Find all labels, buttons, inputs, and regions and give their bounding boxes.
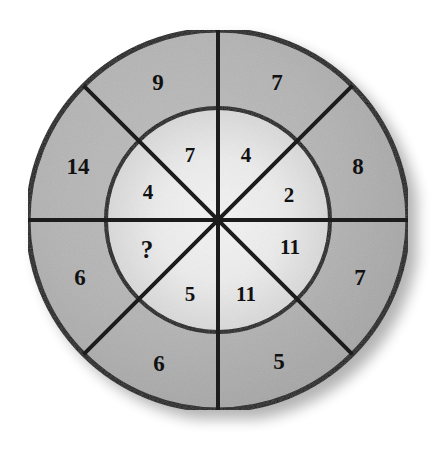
outer-segment-value: 7 xyxy=(354,265,366,290)
outer-segment-value: 6 xyxy=(153,351,165,376)
outer-segment-value: 8 xyxy=(352,154,364,179)
outer-segment-value: 14 xyxy=(67,154,91,179)
inner-segment-value: 4 xyxy=(241,143,252,167)
circle-puzzle-diagram: 9 7 8 7 5 6 6 14 7 4 2 11 11 5 ? 4 xyxy=(0,0,441,449)
inner-segment-value: 11 xyxy=(236,282,256,306)
inner-segment-unknown: ? xyxy=(141,236,154,263)
outer-segment-value: 7 xyxy=(271,70,283,95)
outer-segment-value: 6 xyxy=(74,265,86,290)
spokes-group xyxy=(28,30,408,410)
outer-segment-value: 5 xyxy=(273,349,285,374)
outer-segment-value: 9 xyxy=(152,70,164,95)
inner-segment-value: 5 xyxy=(185,282,196,306)
puzzle-canvas: 9 7 8 7 5 6 6 14 7 4 2 11 11 5 ? 4 xyxy=(0,0,441,449)
wheel-body xyxy=(28,30,408,410)
inner-segment-value: 7 xyxy=(185,143,196,167)
inner-segment-value: 11 xyxy=(280,235,300,259)
inner-segment-value: 4 xyxy=(143,180,154,204)
inner-segment-value: 2 xyxy=(284,183,295,207)
